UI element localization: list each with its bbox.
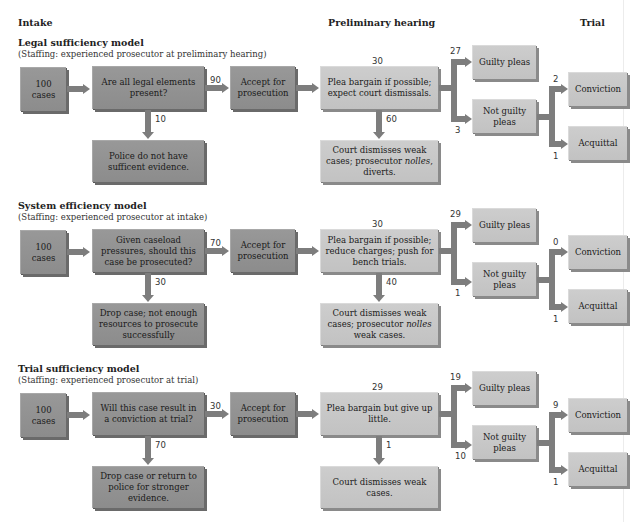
arrow-shaft: [296, 248, 312, 254]
arrow-right-icon: [83, 410, 90, 420]
branch-connector: [451, 59, 457, 122]
arrow-right-icon: [561, 410, 568, 420]
arrow-shaft: [145, 273, 151, 295]
arrow-right-icon: [312, 409, 319, 419]
rejected-outcome-box: Drop case or return to police for strong…: [92, 466, 204, 508]
accept-prosecution-box: Accept for prosecution: [230, 229, 295, 272]
arrow-right-icon: [561, 84, 568, 94]
guilty-count: 19: [450, 372, 461, 382]
arrow-right-icon: [222, 83, 229, 93]
start-cases-box: 100 cases: [20, 67, 66, 111]
branch-connector: [537, 440, 549, 446]
conviction-count: 2: [553, 74, 558, 84]
screening-question-box: Are all legal elements present?: [92, 66, 204, 109]
rejected-outcome-box: Police do not have sufficent evidence.: [92, 140, 204, 182]
notguilty-count: 10: [455, 451, 466, 461]
not-guilty-pleas-box: Not guilty pleas: [472, 99, 536, 133]
conviction-box: Conviction: [568, 72, 627, 106]
arrow-shaft: [145, 436, 151, 458]
rejected-outcome-box: Drop case; not enough resources to prose…: [92, 303, 204, 345]
arrow-shaft: [549, 249, 561, 255]
branch-connector: [549, 412, 555, 473]
arrow-right-icon: [222, 409, 229, 419]
arrow-shaft: [67, 86, 83, 92]
prelim-count: 29: [372, 382, 383, 392]
court-dismisses-box: Court dismisses weak cases.: [320, 466, 438, 508]
guilty-count: 27: [450, 46, 461, 56]
arrow-shaft: [205, 85, 222, 91]
arrow-shaft: [67, 412, 83, 418]
arrow-down-icon: [373, 295, 385, 302]
acquittal-box: Acquittal: [568, 126, 627, 160]
arrow-right-icon: [465, 383, 472, 393]
arrow-right-icon: [465, 277, 472, 287]
arrow-shaft: [296, 85, 312, 91]
arrow-right-icon: [561, 247, 568, 257]
not-guilty-pleas-box: Not guilty pleas: [472, 262, 536, 296]
column-header-trial: Trial: [580, 17, 605, 28]
acquittal-count: 1: [553, 477, 558, 487]
arrow-shaft: [451, 279, 465, 285]
arrow-right-icon: [465, 220, 472, 230]
arrow-shaft: [451, 385, 465, 391]
arrow-right-icon: [312, 246, 319, 256]
rejected-count: 70: [155, 440, 166, 450]
arrow-shaft: [549, 412, 561, 418]
branch-connector: [451, 385, 457, 448]
arrow-down-icon: [373, 132, 385, 139]
guilty-pleas-box: Guilty pleas: [472, 45, 536, 79]
arrow-shaft: [549, 141, 561, 147]
branch-connector: [451, 222, 457, 285]
column-header-intake: Intake: [18, 17, 53, 28]
arrow-right-icon: [465, 114, 472, 124]
rejected-count: 10: [155, 114, 166, 124]
conviction-box: Conviction: [568, 398, 627, 432]
arrow-right-icon: [561, 302, 568, 312]
column-header-preliminary-hearing: Preliminary hearing: [328, 17, 435, 28]
accept-prosecution-box: Accept for prosecution: [230, 66, 295, 109]
acquittal-box: Acquittal: [568, 289, 627, 323]
not-guilty-pleas-box: Not guilty pleas: [472, 425, 536, 459]
dismiss-count: 1: [386, 440, 391, 450]
arrow-shaft: [67, 249, 83, 255]
court-dismisses-box: Court dismisses weak cases; prosecutor n…: [320, 303, 438, 345]
accept-prosecution-box: Accept for prosecution: [230, 392, 295, 435]
branch-connector: [549, 249, 555, 310]
model-staffing: (Staffing: experienced prosecutor at pre…: [18, 49, 267, 59]
branch-connector: [439, 411, 451, 417]
arrow-shaft: [451, 59, 465, 65]
acquittal-count: 1: [553, 151, 558, 161]
model-legal-sufficiency: Legal sufficiency model (Staffing: exper…: [0, 37, 641, 200]
arrow-right-icon: [222, 246, 229, 256]
arrow-right-icon: [465, 57, 472, 67]
prelim-count: 30: [372, 56, 383, 66]
preliminary-strategy-box: Plea bargain if possible; reduce charges…: [320, 229, 438, 272]
acquittal-count: 1: [553, 314, 558, 324]
arrow-right-icon: [561, 139, 568, 149]
dismiss-count: 40: [386, 277, 397, 287]
arrow-right-icon: [465, 440, 472, 450]
branch-connector: [537, 277, 549, 283]
acquittal-box: Acquittal: [568, 452, 627, 486]
model-staffing: (Staffing: experienced prosecutor at tri…: [18, 375, 198, 385]
arrow-shaft: [549, 467, 561, 473]
rejected-count: 30: [155, 277, 166, 287]
arrow-shaft: [451, 442, 465, 448]
arrow-shaft: [451, 116, 465, 122]
arrow-shaft: [145, 110, 151, 132]
notguilty-count: 1: [455, 288, 460, 298]
arrow-down-icon: [142, 458, 154, 465]
arrow-shaft: [376, 110, 382, 132]
arrow-down-icon: [142, 295, 154, 302]
model-title: Legal sufficiency model: [18, 37, 144, 48]
start-cases-box: 100 cases: [20, 393, 66, 437]
accepted-count: 70: [210, 238, 221, 248]
guilty-count: 29: [450, 209, 461, 219]
model-title: System efficiency model: [18, 200, 147, 211]
preliminary-strategy-box: Plea bargain if possible; expect court d…: [320, 66, 438, 109]
arrow-right-icon: [312, 83, 319, 93]
accepted-count: 30: [210, 401, 221, 411]
court-dismisses-box: Court dismisses weak cases; prosecutor n…: [320, 140, 438, 182]
branch-connector: [439, 248, 451, 254]
model-title: Trial sufficiency model: [18, 363, 139, 374]
